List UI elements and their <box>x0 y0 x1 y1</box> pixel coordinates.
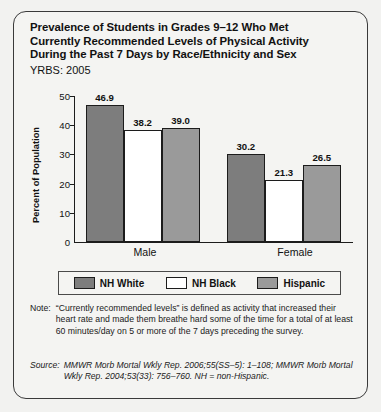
chart-subtitle: YRBS: 2005 <box>30 63 360 77</box>
bar-slot: 46.9 <box>86 96 124 242</box>
bar-value-label: 30.2 <box>237 141 256 152</box>
source-text: MMWR Morb Mortal Wkly Rep. 2006;55(SS–5)… <box>64 360 360 383</box>
legend-item-hispanic[interactable]: Hispanic <box>257 277 325 289</box>
legend-label: Hispanic <box>283 278 325 289</box>
bar-slot: 26.5 <box>303 96 341 242</box>
y-tick-mark <box>70 154 75 155</box>
bar-slot: 21.3 <box>265 96 303 242</box>
chart-title-line-1: Prevalence of Students in Grades 9–12 Wh… <box>30 21 360 35</box>
y-tick-mark <box>70 96 75 97</box>
legend-item-nh-black[interactable]: NH Black <box>166 277 236 289</box>
x-axis-category-labels: MaleFemale <box>74 246 352 262</box>
bar-value-label: 26.5 <box>313 152 332 163</box>
bar-nh-white-female: 30.2 <box>227 154 265 242</box>
y-tick-mark <box>70 184 75 185</box>
note-label: Note: <box>30 303 56 314</box>
bar-nh-white-male: 46.9 <box>86 105 124 242</box>
y-axis-title: Percent of Population <box>28 110 44 240</box>
y-tick-label: 20 <box>44 178 70 189</box>
bar-slot: 30.2 <box>227 96 265 242</box>
bar-hispanic-male: 39.0 <box>162 128 200 242</box>
y-tick-label: 10 <box>44 207 70 218</box>
bar-group-female: 30.221.326.5 <box>227 96 341 242</box>
chart-legend: NH WhiteNH BlackHispanic <box>58 271 341 295</box>
bar-value-label: 46.9 <box>95 92 114 103</box>
source-label: Source: <box>30 360 64 371</box>
bar-hispanic-female: 26.5 <box>303 165 341 242</box>
bar-series-container: 46.938.239.0 30.221.326.5 <box>75 96 353 242</box>
chart-card: Prevalence of Students in Grades 9–12 Wh… <box>13 11 368 399</box>
bar-slot: 39.0 <box>162 96 200 242</box>
note-block: Note: “Currently recommended levels” is … <box>30 303 355 337</box>
y-tick-label: 30 <box>44 149 70 160</box>
plot-right-pad <box>341 96 353 242</box>
y-tick-label: 50 <box>44 91 70 102</box>
bar-value-label: 21.3 <box>275 167 294 178</box>
chart-page: Prevalence of Students in Grades 9–12 Wh… <box>0 0 381 412</box>
note-text: “Currently recommended levels” is define… <box>56 303 355 337</box>
x-category-label-male: Male <box>134 246 157 258</box>
bar-group-male: 46.938.239.0 <box>86 96 200 242</box>
y-tick-label: 0 <box>44 237 70 248</box>
plot-group-gap <box>200 96 227 242</box>
source-block: Source: MMWR Morb Mortal Wkly Rep. 2006;… <box>30 360 360 383</box>
legend-label: NH White <box>100 278 144 289</box>
legend-item-nh-white[interactable]: NH White <box>74 277 144 289</box>
legend-swatch-nh-white <box>74 277 95 289</box>
bar-slot: 38.2 <box>124 96 162 242</box>
bar-value-label: 38.2 <box>133 117 152 128</box>
bar-nh-black-female: 21.3 <box>265 180 303 242</box>
plot-frame: 46.938.239.0 30.221.326.5 <box>74 96 353 243</box>
title-block: Prevalence of Students in Grades 9–12 Wh… <box>30 21 360 77</box>
chart-title-line-2: Currently Recommended Levels of Physical… <box>30 35 360 49</box>
legend-swatch-nh-black <box>166 277 187 289</box>
legend-swatch-hispanic <box>257 277 278 289</box>
bar-value-label: 39.0 <box>171 115 190 126</box>
bar-nh-black-male: 38.2 <box>124 130 162 242</box>
y-tick-mark <box>70 125 75 126</box>
plot-left-pad <box>75 96 86 242</box>
chart-plot-area: Percent of Population 01020304050 46.938… <box>30 84 356 264</box>
y-tick-label: 40 <box>44 120 70 131</box>
y-tick-mark <box>70 213 75 214</box>
chart-title-line-3: During the Past 7 Days by Race/Ethnicity… <box>30 48 360 62</box>
y-axis-tick-labels: 01020304050 <box>44 96 70 242</box>
y-axis-title-text: Percent of Population <box>31 127 41 223</box>
legend-label: NH Black <box>192 278 236 289</box>
x-category-label-female: Female <box>277 246 312 258</box>
